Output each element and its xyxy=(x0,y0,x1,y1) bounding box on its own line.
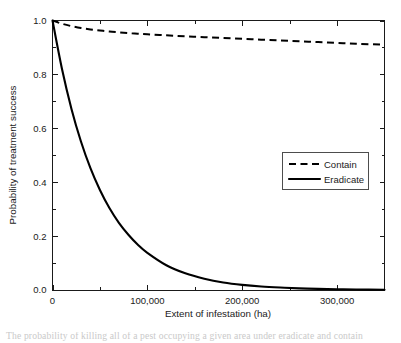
y-axis-title: Probability of treatment success xyxy=(7,85,18,224)
y-tick-label: 0.4 xyxy=(33,177,46,188)
figure-container: 0100,000200,000300,000 0.00.20.40.60.81.… xyxy=(0,0,401,343)
y-axis-tick-labels: 0.00.20.40.60.81.0 xyxy=(33,15,46,296)
x-axis-minor-ticks xyxy=(101,21,291,291)
figure-caption-strip: The probability of killing all of a pest… xyxy=(0,332,401,343)
legend-label-contain: Contain xyxy=(324,159,357,170)
legend-label-eradicate: Eradicate xyxy=(324,174,364,185)
y-tick-label: 1.0 xyxy=(33,15,46,26)
chart-legend[interactable]: Contain Eradicate xyxy=(283,153,369,190)
x-tick-label: 200,000 xyxy=(225,295,259,306)
y-tick-label: 0.8 xyxy=(33,69,46,80)
y-tick-label: 0.2 xyxy=(33,231,46,242)
x-tick-label: 300,000 xyxy=(320,295,354,306)
line-chart: 0100,000200,000300,000 0.00.20.40.60.81.… xyxy=(0,0,401,343)
y-tick-label: 0.6 xyxy=(33,123,46,134)
x-tick-label: 0 xyxy=(50,295,55,306)
figure-caption: The probability of killing all of a pest… xyxy=(6,332,398,341)
y-tick-label: 0.0 xyxy=(33,284,46,295)
x-tick-label: 100,000 xyxy=(130,295,164,306)
x-axis-tick-labels: 0100,000200,000300,000 xyxy=(50,295,354,306)
x-axis-title: Extent of infestation (ha) xyxy=(165,308,271,319)
series-line-contain xyxy=(53,21,385,45)
